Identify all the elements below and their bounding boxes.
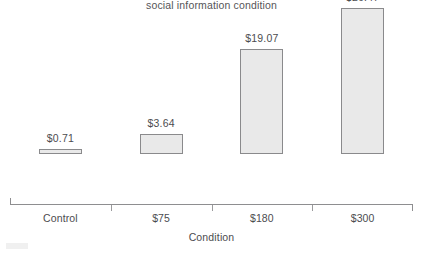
bar-control — [39, 149, 82, 154]
bar-group: $19.07 — [240, 32, 283, 154]
bar-180 — [240, 49, 283, 154]
bar-chart: g social information condition $0.71$3.6… — [0, 0, 423, 256]
x-axis-tick — [111, 205, 112, 211]
bar-group: $26.47 — [341, 0, 384, 154]
bar-group: $0.71 — [39, 132, 82, 154]
category-label: $75 — [111, 212, 212, 224]
x-axis-tick — [312, 205, 313, 211]
category-label: $300 — [312, 212, 413, 224]
x-axis-title: Condition — [10, 231, 413, 243]
bars-layer: $0.71$3.64$19.07$26.47 — [0, 0, 423, 205]
category-label: $180 — [212, 212, 313, 224]
scan-artifact — [6, 243, 28, 249]
bar-75 — [140, 134, 183, 154]
category-label: Control — [10, 212, 111, 224]
category-labels: Control$75$180$300 — [10, 212, 413, 228]
x-axis-tick — [212, 205, 213, 211]
bar-value-label: $19.07 — [245, 32, 278, 44]
bar-300 — [341, 8, 384, 154]
x-axis-left-cap — [10, 198, 11, 205]
bar-value-label: $0.71 — [47, 132, 74, 144]
x-axis-right-cap — [412, 204, 413, 211]
bar-value-label: $3.64 — [148, 117, 175, 129]
bar-group: $3.64 — [140, 117, 183, 154]
bar-value-label: $26.47 — [346, 0, 379, 3]
